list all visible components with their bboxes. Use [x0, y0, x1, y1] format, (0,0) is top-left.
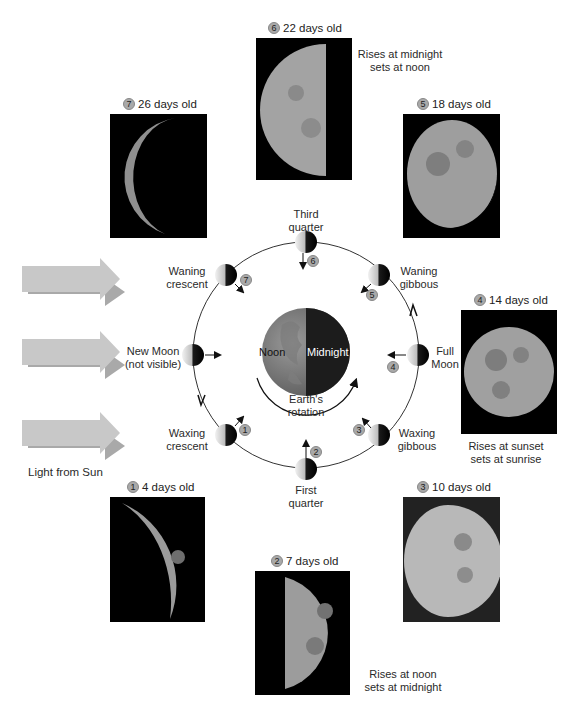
label-waning-gibbous: Waning gibbous — [392, 265, 446, 291]
photo-label-18-days: 5 18 days old — [417, 98, 491, 110]
step-badge-3: 3 — [353, 424, 365, 436]
step-badge-4: 4 — [387, 361, 399, 373]
photo-label-14-days: 4 14 days old — [474, 294, 548, 306]
label-third-quarter: Third quarter — [276, 208, 336, 234]
label-new-moon: New Moon (not visible) — [122, 345, 184, 371]
moon-waning-gibbous — [368, 264, 390, 286]
sun-arrow-bottom — [22, 412, 125, 460]
moon-photo-14-days — [461, 310, 557, 434]
label-waning-crescent: Waning crescent — [160, 265, 214, 291]
moon-photo-18-days — [403, 114, 500, 238]
photo-label-22-days: 6 22 days old — [268, 22, 342, 34]
photo-label-4-days: 1 4 days old — [127, 481, 194, 493]
label-full-moon: Full Moon — [428, 345, 462, 371]
moon-full — [407, 344, 429, 366]
label-first-quarter: First quarter — [276, 484, 336, 510]
moon-waning-crescent — [215, 264, 237, 286]
photo-label-7-days: 2 7 days old — [271, 555, 338, 567]
photo-label-10-days: 3 10 days old — [417, 481, 491, 493]
sun-arrow-middle — [22, 331, 125, 379]
moon-photo-22-days — [256, 38, 352, 180]
sun-arrow-top — [22, 258, 125, 306]
moon-photo-4-days — [110, 497, 205, 622]
sun-light-label: Light from Sun — [28, 466, 103, 479]
step-badge-6: 6 — [307, 255, 319, 267]
moon-waxing-crescent — [215, 424, 237, 446]
step-badge-1: 1 — [239, 424, 251, 436]
step-badge-5: 5 — [366, 289, 378, 301]
moon-photo-26-days — [110, 114, 207, 238]
photo-label-26-days: 7 26 days old — [123, 98, 197, 110]
earth-midnight-label: Midnight — [307, 346, 349, 359]
label-waxing-gibbous: Waxing gibbous — [390, 427, 444, 453]
earth-noon-label: Noon — [259, 346, 285, 359]
moon-photo-10-days — [403, 497, 500, 622]
label-waxing-crescent: Waxing crescent — [160, 427, 214, 453]
note-first-quarter-rise-set: Rises at noon sets at midnight — [358, 668, 448, 694]
step-badge-7: 7 — [240, 274, 252, 286]
moon-waxing-gibbous — [368, 424, 390, 446]
earth-rotation-label: Earth's rotation — [275, 393, 337, 419]
moon-first-quarter — [295, 458, 317, 480]
moon-third-quarter — [295, 231, 317, 253]
step-badge-2: 2 — [310, 446, 322, 458]
note-full-moon-rise-set: Rises at sunset sets at sunrise — [458, 440, 554, 466]
note-third-quarter-rise-set: Rises at midnight sets at noon — [355, 48, 445, 74]
moon-photo-7-days — [255, 571, 350, 695]
moon-new — [182, 344, 204, 366]
